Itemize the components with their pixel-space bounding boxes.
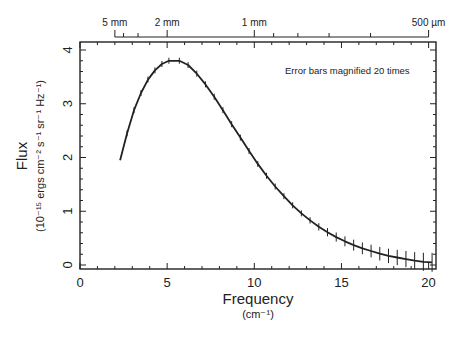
x-tick-label: 0 [76,275,83,290]
flux-vs-frequency-chart: 5 mm2 mm1 mm500 µm 05101520 01234 Error … [0,0,470,340]
x-axis-ticks: 05101520 [76,42,435,290]
x-tick-label: 10 [247,275,261,290]
x-tick-label: 5 [164,275,171,290]
top-axis-label: 5 mm [102,17,127,28]
top-wavelength-axis: 5 mm2 mm1 mm500 µm [102,17,445,37]
y-axis-unit: (10⁻¹⁵ ergs cm⁻² s⁻¹ sr⁻¹ Hz⁻¹) [34,80,46,232]
y-axis-ticks: 01234 [60,46,436,268]
top-axis-label: 2 mm [155,17,180,28]
top-axis-label: 1 mm [242,17,267,28]
error-bar-annotation: Error bars magnified 20 times [285,65,410,76]
flux-series [120,58,432,272]
plot-frame [80,42,436,269]
x-axis-unit: (cm⁻¹) [242,308,274,320]
y-axis-title: Flux [13,141,30,170]
x-tick-label: 20 [421,275,435,290]
y-tick-label: 4 [60,46,75,53]
y-tick-label: 3 [60,100,75,107]
x-axis-title: Frequency [223,290,294,307]
x-tick-label: 15 [334,275,348,290]
y-tick-label: 2 [60,154,75,161]
y-tick-label: 1 [60,208,75,215]
flux-curve [120,61,432,262]
y-tick-label: 0 [60,261,75,268]
top-axis-label: 500 µm [412,17,446,28]
